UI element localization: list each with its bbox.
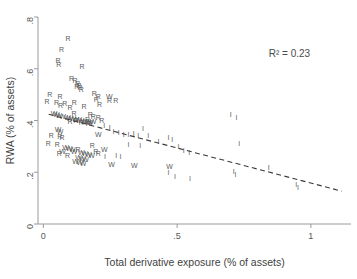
data-point-I: I xyxy=(119,153,121,160)
data-point-I: I xyxy=(297,184,299,191)
data-point-I: I xyxy=(168,134,170,141)
data-point-R: R xyxy=(59,46,64,53)
data-point-W: W xyxy=(88,152,95,159)
data-point-I: I xyxy=(238,140,240,147)
data-point-W: W xyxy=(80,160,87,167)
data-point-I: I xyxy=(104,153,106,160)
data-point-R: R xyxy=(113,97,118,104)
data-point-R: R xyxy=(65,35,70,42)
y-tick-label: .6 xyxy=(25,69,35,77)
data-point-W: W xyxy=(101,146,108,153)
data-point-I: I xyxy=(171,136,173,143)
data-point-I: I xyxy=(168,169,170,176)
data-point-I: I xyxy=(230,111,232,118)
data-point-I: I xyxy=(103,122,105,129)
data-point-I: I xyxy=(147,132,149,139)
y-axis-title: RWA (% of assets) xyxy=(4,77,16,165)
data-point-I: I xyxy=(115,152,117,159)
data-point-I: I xyxy=(142,125,144,132)
data-point-R: R xyxy=(55,141,60,148)
data-point-I: I xyxy=(109,124,111,131)
data-point-R: R xyxy=(81,103,86,110)
data-point-R: R xyxy=(80,63,85,70)
data-point-W: W xyxy=(59,148,66,155)
data-point-I: I xyxy=(268,164,270,171)
y-tick-label: .4 xyxy=(25,121,35,129)
y-tick-label: 0 xyxy=(25,224,35,229)
y-axis-ticks: 0.2.4.6.8 xyxy=(25,17,38,229)
data-point-W: W xyxy=(131,162,138,169)
data-point-I: I xyxy=(127,141,129,148)
data-point-I: I xyxy=(133,130,135,137)
data-point-I: I xyxy=(236,114,238,121)
data-point-W: W xyxy=(108,161,115,168)
data-point-W: W xyxy=(95,131,102,138)
plot-canvas: 0.2.4.6.8 0.51 RRRRRRRRRRRRRRRRRRRRRRRRR… xyxy=(0,0,357,279)
data-point-R: R xyxy=(45,98,50,105)
data-point-R: R xyxy=(97,101,102,108)
data-point-I: I xyxy=(174,173,176,180)
data-point-R: R xyxy=(79,86,84,93)
data-point-I: I xyxy=(183,147,185,154)
data-point-W: W xyxy=(106,93,113,100)
x-axis-ticks: 0.51 xyxy=(41,224,314,241)
x-tick-label: 0 xyxy=(41,231,46,241)
x-tick-label: .5 xyxy=(173,231,181,241)
data-point-W: W xyxy=(57,128,64,135)
x-tick-label: 1 xyxy=(308,231,313,241)
y-tick-label: .8 xyxy=(25,17,35,25)
data-point-R: R xyxy=(58,102,63,109)
data-point-group: RRRRRRRRRRRRRRRRRRRRRRRRRRRRRRRRRRRRRRRR… xyxy=(45,35,299,191)
data-point-R: R xyxy=(46,140,51,147)
data-point-I: I xyxy=(234,171,236,178)
data-point-W: W xyxy=(90,118,97,125)
data-point-R: R xyxy=(96,150,101,157)
data-point-R: R xyxy=(47,91,52,98)
data-point-I: I xyxy=(127,131,129,138)
data-point-I: I xyxy=(189,175,191,182)
scatter-plot-figure: 0.2.4.6.8 0.51 RRRRRRRRRRRRRRRRRRRRRRRRR… xyxy=(0,0,357,279)
data-point-R: R xyxy=(56,61,61,68)
x-axis-title: Total derivative exposure (% of assets) xyxy=(104,256,284,268)
data-point-I: I xyxy=(139,142,141,149)
y-tick-label: .2 xyxy=(25,172,35,180)
data-point-R: R xyxy=(49,132,54,139)
r-squared-annotation: R² = 0.23 xyxy=(269,48,311,59)
